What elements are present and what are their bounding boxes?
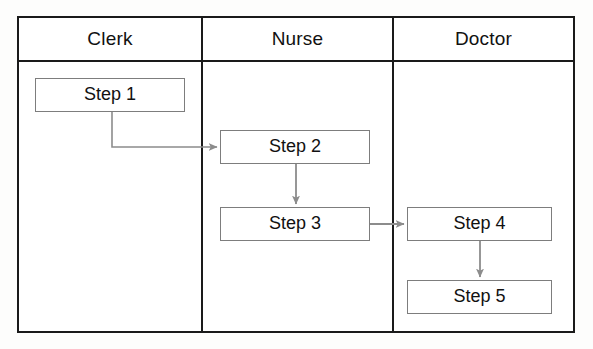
lane-header-nurse: Nurse [203,18,392,60]
node-step-4-label: Step 4 [408,208,551,239]
node-step-2-label: Step 2 [221,131,369,162]
node-step-1-label: Step 1 [36,79,184,110]
lane-header-doctor: Doctor [394,18,573,60]
lane-header-clerk: Clerk [19,18,201,60]
swimlane-diagram: Clerk Nurse Doctor Step 1 Step 2 Step 3 … [0,0,593,349]
node-step-2[interactable]: Step 2 [220,130,370,164]
lane-divider-nurse-doctor [392,16,394,333]
node-step-1[interactable]: Step 1 [35,78,185,112]
node-step-3-label: Step 3 [221,208,369,239]
node-step-5[interactable]: Step 5 [407,280,552,314]
lane-header-separator [17,60,575,62]
node-step-4[interactable]: Step 4 [407,207,552,241]
lane-divider-clerk-nurse [201,16,203,333]
node-step-3[interactable]: Step 3 [220,207,370,241]
node-step-5-label: Step 5 [408,281,551,312]
